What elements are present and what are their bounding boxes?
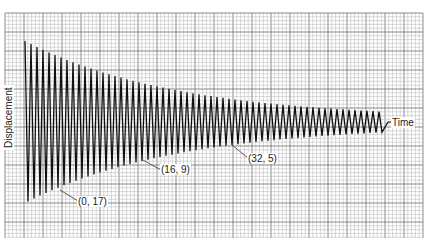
x-axis-label: Time	[391, 117, 415, 128]
annotation-point-0-17: (0, 17)	[77, 196, 108, 207]
annotation-point-32-5: (32, 5)	[247, 153, 278, 164]
y-axis-label: Displacement	[3, 85, 14, 150]
annotation-point-16-9: (16, 9)	[160, 164, 191, 175]
damped-oscillation-chart	[0, 0, 428, 245]
graph-paper-grid	[5, 13, 423, 238]
